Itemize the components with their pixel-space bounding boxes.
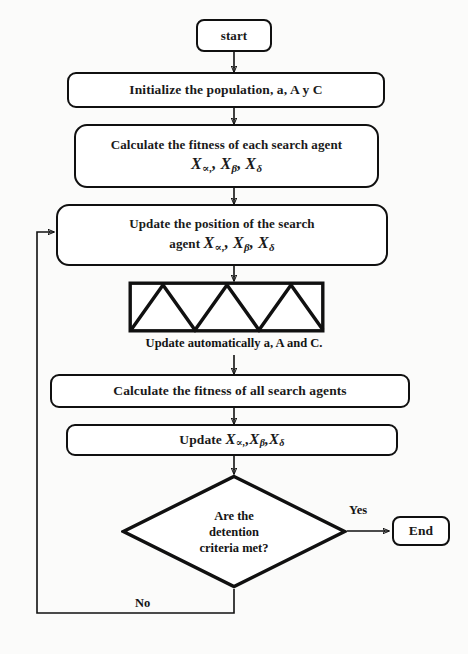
edge-label-yes: Yes [349,503,367,518]
node-update-x[interactable]: Update X∝,,Xβ,Xδ [66,424,398,456]
node-initialize-population[interactable]: Initialize the population, a, A y C [67,72,385,108]
math-x-8: X [249,431,259,447]
math-x-6: X [258,234,269,251]
edge-label-no: No [135,596,150,611]
node-update-position-line1: Update the position of the search [129,216,314,231]
node-update-x-prefix: Update [179,432,225,447]
node-calc-each-line1: Calculate the fitness of each search age… [111,137,342,152]
node-start[interactable]: start [196,19,272,52]
node-update-position-prefix: agent [169,236,203,251]
math-sub-alpha-3: ∝, [236,437,246,448]
node-end[interactable]: End [392,516,450,546]
decision-text-block: Are the detention criteria met? [121,474,347,589]
node-calculate-fitness-each-agent[interactable]: Calculate the fitness of each search age… [74,124,379,188]
math-sub-alpha-1: ∝, [202,162,213,174]
math-sub-delta-1: δ [256,162,262,174]
math-x-9: X [269,431,279,447]
sawtooth-caption: Update automatically a, A and C. [0,336,468,351]
math-sep-4: , [250,234,258,251]
node-start-label: start [221,28,248,43]
math-sub-delta-3: δ [279,437,285,448]
decision-line3: criteria met? [199,540,268,556]
decision-line1: Are the [214,508,254,524]
node-calculate-fitness-all-agents[interactable]: Calculate the fitness of all search agen… [50,374,410,408]
decision-line2: detention [209,524,259,540]
flowchart-canvas: start Initialize the population, a, A y … [0,0,468,654]
math-x-5: X [233,234,244,251]
math-x-2: X [220,155,231,172]
math-x-7: X [225,431,235,447]
node-end-label: End [409,523,433,539]
math-sub-delta-2: δ [269,241,275,253]
node-update-position[interactable]: Update the position of the search agent … [56,204,388,266]
node-update-position-line2: agent X∝,, Xβ, Xδ [169,234,274,254]
node-update-x-label: Update X∝,,Xβ,Xδ [179,431,284,450]
math-x-4: X [203,234,214,251]
math-x-3: X [245,155,256,172]
math-sep-3: , [225,234,233,251]
node-initialize-label: Initialize the population, a, A y C [129,82,322,98]
math-x-1: X [191,155,202,172]
node-decision-detention-criteria[interactable]: Are the detention criteria met? [121,474,347,589]
math-sub-alpha-2: ∝, [214,241,225,253]
node-sawtooth-manual-operation[interactable] [128,281,325,333]
sawtooth-graphic [128,281,325,333]
node-calc-all-label: Calculate the fitness of all search agen… [113,383,346,399]
node-calc-each-math: X∝,, Xβ, Xδ [191,155,262,175]
